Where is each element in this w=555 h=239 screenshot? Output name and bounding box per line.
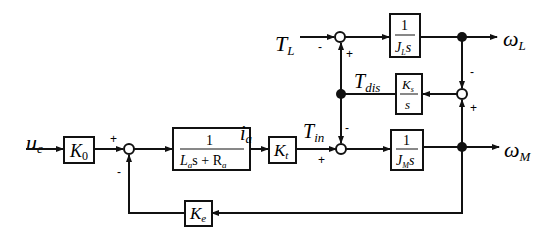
sum1-plus-sign: + — [110, 132, 117, 146]
block-ke: Ke — [185, 201, 212, 226]
svg-text:s: s — [405, 97, 410, 112]
summing-junction-spring — [457, 89, 467, 99]
block-load-inertia: 1 JLs — [390, 14, 420, 57]
torque-in-label: Tin — [303, 120, 324, 145]
summing-junction-1 — [124, 144, 134, 154]
load-torque-label: TL — [275, 31, 294, 58]
block-kt: Kt — [269, 137, 296, 163]
spring-sum-plus-sign: + — [470, 101, 477, 115]
summing-junction-motor — [336, 144, 346, 154]
svg-text:1: 1 — [206, 133, 213, 148]
svg-text:Las + Ra: Las + Ra — [179, 153, 227, 170]
load-sum-minus-sign: - — [318, 40, 322, 54]
svg-text:1: 1 — [403, 133, 410, 148]
block-k0: K0 — [64, 137, 94, 163]
sum1-minus-sign: - — [117, 165, 121, 179]
summing-junction-load — [335, 32, 345, 42]
block-spring: Ks s — [396, 74, 422, 114]
omega-l-output-label: ωL — [503, 26, 526, 53]
current-signal-label: ia — [240, 122, 253, 146]
motor-sum-minus-sign: - — [345, 121, 349, 135]
motor-sum-plus-sign: + — [318, 153, 325, 167]
block-electrical: 1 Las + Ra — [173, 128, 250, 170]
omega-m-output-label: ωM — [504, 137, 532, 164]
block-diagram: uc K0 + - 1 Las + Ra ia Kt Tin + - 1 JMs… — [0, 0, 555, 239]
torque-dis-label: Tdis — [354, 70, 380, 95]
svg-text:1: 1 — [401, 18, 408, 33]
input-signal-label: uc — [26, 130, 43, 156]
load-sum-plus-sign: + — [346, 47, 353, 61]
block-motor-inertia: 1 JMs — [391, 130, 423, 170]
spring-sum-minus-sign: - — [470, 65, 474, 79]
